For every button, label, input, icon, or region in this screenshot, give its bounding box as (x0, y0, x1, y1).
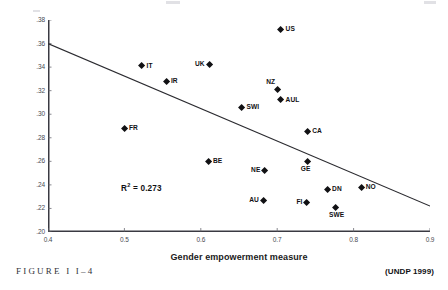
data-point-label: UK (195, 61, 205, 68)
y-axis-tick-label: .24 (27, 181, 45, 188)
scan-artifact-left (166, 1, 180, 4)
y-axis-tick-label: .38 (27, 16, 45, 23)
y-axis-tick-label: .30 (27, 110, 45, 117)
data-point-label: AU (249, 197, 259, 204)
figure-caption: FIGURE I I–4 (16, 266, 94, 276)
data-point-label: IR (171, 78, 178, 85)
data-point-label: FR (129, 125, 138, 132)
caption-row: FIGURE I I–4 (UNDP 1999) (0, 266, 448, 284)
data-point-label: DN (332, 186, 342, 193)
data-point-label: CA (312, 128, 322, 135)
data-point-label: AUL (286, 97, 300, 104)
r-squared-value: 0.273 (140, 184, 162, 193)
y-axis-tick-label: .22 (27, 204, 45, 211)
y-axis-tick-label: .26 (27, 157, 45, 164)
data-point-label: US (286, 26, 295, 33)
scan-artifact-right (424, 1, 436, 4)
data-point-label: SWE (329, 212, 344, 219)
plot-area: USITUKIRNZAULSWIFRCABEGENEDNNOAUFISWE R2… (48, 20, 430, 232)
data-point-label: NE (251, 167, 260, 174)
data-point-label: GE (301, 166, 311, 173)
r-squared-text: R2 = (121, 184, 140, 193)
y-axis-tick-label: .20 (27, 228, 45, 235)
figure-container: Disposable income Gini .38.36.34.32.30.2… (0, 0, 448, 290)
source-credit: (UNDP 1999) (385, 267, 434, 276)
x-axis-tick-label: 0.6 (188, 236, 214, 243)
y-axis-tick-label: .36 (27, 40, 45, 47)
data-point-label: FI (296, 199, 302, 206)
y-axis-tick-label: .34 (27, 63, 45, 70)
trend-line (48, 44, 430, 207)
x-axis-tick-label: 0.5 (111, 236, 137, 243)
data-point-label: BE (213, 158, 222, 165)
x-axis-tick-label: 0.4 (35, 236, 61, 243)
x-axis-tick-label: 0.9 (417, 236, 443, 243)
data-point-label: NZ (266, 79, 275, 86)
y-axis-tick-label: .32 (27, 87, 45, 94)
y-axis-tick-label: .28 (27, 134, 45, 141)
data-point-label: NO (366, 184, 376, 191)
x-axis-title: Gender empowerment measure (48, 252, 430, 262)
r-squared-annotation: R2 = 0.273 (121, 182, 162, 193)
plot-canvas (48, 20, 430, 232)
scan-artifact-corner (33, 10, 40, 12)
data-point-label: SWI (247, 104, 260, 111)
x-axis-tick-label: 0.7 (264, 236, 290, 243)
data-point-label: IT (146, 63, 152, 70)
x-axis-tick-label: 0.8 (341, 236, 367, 243)
